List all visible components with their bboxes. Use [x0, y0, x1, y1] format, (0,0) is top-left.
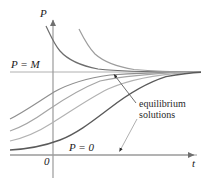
plot-canvas: [0, 0, 206, 183]
equilibrium-label-p-equals-zero: P = 0: [69, 142, 94, 154]
logistic-equilibrium-figure: P t P = M P = 0 0 equilibrium solutions: [0, 0, 206, 183]
origin-label: 0: [44, 156, 50, 168]
annotation-line-1: equilibrium: [139, 99, 186, 110]
leader-line-to-p-equals-m: [114, 75, 136, 104]
solution-curve-decaying-1: [46, 26, 201, 72]
leader-line-to-p-equals-zero: [120, 119, 138, 152]
equilibrium-solutions-annotation: equilibrium solutions: [139, 99, 186, 120]
t-axis-label: t: [192, 158, 195, 170]
equilibrium-label-p-equals-m: P = M: [11, 59, 40, 71]
annotation-line-2: solutions: [139, 110, 186, 121]
solution-curve-decaying-2: [79, 29, 201, 72]
p-axis-label: P: [40, 8, 47, 20]
